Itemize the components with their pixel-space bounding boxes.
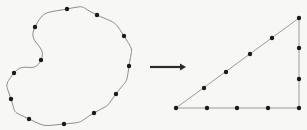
sample-point (248, 52, 252, 56)
sample-point (27, 117, 31, 121)
arrow-right-icon (180, 64, 186, 71)
triangle-outline (176, 18, 299, 108)
sample-point (12, 71, 16, 75)
sample-point (174, 106, 178, 110)
source-closed-curve (7, 7, 132, 126)
sample-point (33, 25, 37, 29)
sample-point (235, 106, 239, 110)
sample-point (297, 77, 301, 81)
sample-point (297, 106, 301, 110)
sample-point (9, 97, 13, 101)
curve-outline (7, 7, 132, 126)
sample-point (95, 13, 99, 17)
mapping-arrow (150, 64, 186, 71)
sample-point (297, 16, 301, 20)
sample-point (266, 106, 270, 110)
target-right-triangle (174, 16, 301, 110)
sample-point (205, 106, 209, 110)
sample-point (202, 86, 206, 90)
sample-point (39, 58, 43, 62)
diagram-canvas (0, 0, 307, 130)
sample-point (127, 64, 131, 68)
curve-sample-points (9, 7, 131, 126)
sample-point (122, 34, 126, 38)
sample-point (224, 70, 228, 74)
sample-point (297, 46, 301, 50)
sample-point (92, 111, 96, 115)
sample-point (270, 36, 274, 40)
sample-point (62, 122, 66, 126)
sample-point (65, 7, 69, 11)
sample-point (114, 92, 118, 96)
